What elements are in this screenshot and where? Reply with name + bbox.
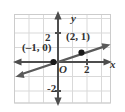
data-point-1 xyxy=(50,59,56,65)
coordinate-plane-figure: y x O 2 -2 2 (–1, 0) (2, 1) xyxy=(0,0,125,112)
x-axis-label: x xyxy=(110,59,116,70)
data-point-2 xyxy=(78,50,84,56)
point-label-2: (2, 1) xyxy=(66,31,90,42)
x-tick-label-2: 2 xyxy=(84,64,90,75)
origin-label: O xyxy=(59,64,67,75)
y-axis-label: y xyxy=(71,13,76,24)
point-label-1: (–1, 0) xyxy=(22,42,51,53)
y-tick-label-neg-2: -2 xyxy=(47,83,56,94)
graph-canvas xyxy=(0,0,125,112)
